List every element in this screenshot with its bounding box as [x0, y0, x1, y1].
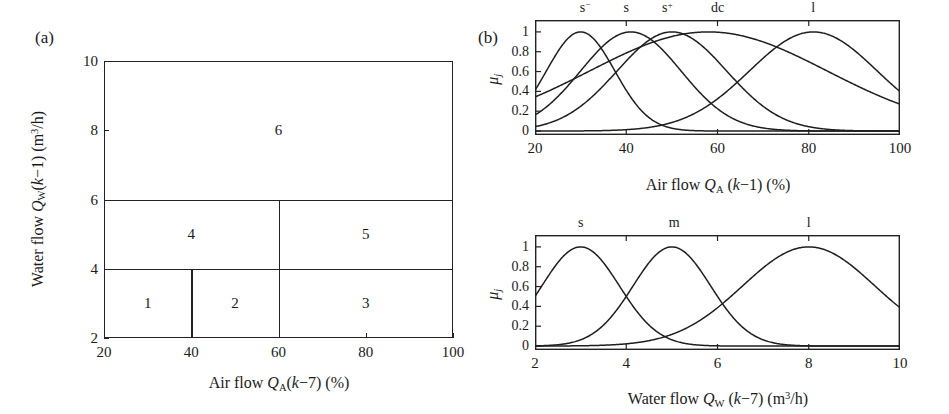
panel-a-yticklabel-8: 8: [68, 122, 98, 139]
b2-x-symbol: Q: [703, 390, 715, 407]
water-flow-membership-xticklabel-8: 8: [805, 355, 813, 372]
air-flow-x-axis-title: Air flow QA (k−1) (%): [646, 176, 791, 195]
water-flow-membership-yticklabel-0.6: 0.6: [495, 279, 529, 295]
air-flow-membership-yticklabel-0.8: 0.8: [495, 44, 529, 60]
panel-a: (a) Air flow QA(k−7) (%) Water flow QW(k…: [0, 0, 470, 414]
panel-a-xticklabel-40: 40: [184, 344, 199, 361]
panel-a-label: (a): [35, 28, 54, 48]
panel-a-y-title-symbol: Q: [29, 200, 46, 212]
water-flow-membership-frame: [536, 236, 900, 350]
air-flow-membership-xticklabel-100: 100: [889, 140, 912, 157]
air-flow-membership-term-dc: dc: [711, 0, 724, 16]
air-flow-membership-yticklabel-0.4: 0.4: [495, 83, 529, 99]
panel-a-yticklabel-6: 6: [68, 191, 98, 208]
panel-a-y-title-exponent: 3: [29, 129, 40, 134]
air-flow-membership-frame: [536, 21, 900, 135]
water-flow-x-axis-title: Water flow QW (k−7) (m3/h): [628, 390, 808, 409]
water-flow-membership-xticklabel-10: 10: [893, 355, 908, 372]
panel-a-y-title-prefix: Water flow: [29, 212, 46, 287]
b1-x-lag: −1) (%): [740, 176, 790, 193]
panel-a-xtick-40: [191, 333, 192, 338]
b1-x-prefix: Air flow: [646, 176, 705, 193]
b2-x-paren: (: [725, 390, 734, 407]
panel-a-yticklabel-2: 2: [68, 330, 98, 347]
air-flow-membership-term-s⁻: s−: [580, 0, 591, 16]
panel-a-region-4: 4: [188, 226, 196, 243]
water-flow-membership-term-l: l: [807, 215, 811, 231]
air-flow-membership-yticklabel-0.6: 0.6: [495, 64, 529, 80]
panel-a-ytick-10: [104, 61, 109, 62]
panel-a-y-title-subscript: W: [36, 190, 47, 200]
panel-a-xticklabel-100: 100: [442, 344, 465, 361]
water-flow-membership-yticklabel-1: 1: [495, 239, 529, 255]
panel-b: (b) μj Air flow QA (k−1) (%) μj Water fl…: [470, 0, 949, 414]
panel-a-xtick-80: [366, 333, 367, 338]
air-flow-membership-xticklabel-40: 40: [619, 140, 634, 157]
panel-a-divider-v-1: [279, 200, 280, 339]
panel-a-x-title-subscript: A: [279, 382, 287, 393]
panel-a-xticklabel-60: 60: [271, 344, 286, 361]
panel-a-ytick-4: [104, 269, 109, 270]
panel-a-xticklabel-20: 20: [97, 344, 112, 361]
panel-a-x-title-lag: −7) (%): [299, 374, 349, 391]
water-flow-membership-chart: [535, 235, 900, 350]
air-flow-membership-yticklabel-0: 0: [495, 123, 529, 139]
water-flow-membership-term-s: s: [578, 215, 583, 231]
panel-a-x-title-symbol: Q: [267, 374, 279, 391]
water-flow-membership-xticklabel-4: 4: [623, 355, 631, 372]
air-flow-membership-chart: [535, 20, 900, 135]
panel-a-region-5: 5: [362, 226, 370, 243]
panel-a-region-3: 3: [362, 295, 370, 312]
panel-a-y-title-unit: /h): [29, 111, 46, 129]
water-flow-membership-yticklabel-0.4: 0.4: [495, 298, 529, 314]
water-flow-membership-term-m: m: [669, 215, 680, 231]
panel-a-region-1: 1: [144, 295, 152, 312]
water-flow-membership-yticklabel-0.8: 0.8: [495, 259, 529, 275]
air-flow-membership-yticklabel-1: 1: [495, 24, 529, 40]
panel-a-yticklabel-4: 4: [68, 260, 98, 277]
panel-a-x-title-prefix: Air flow: [209, 374, 268, 391]
b2-x-subscript: W: [715, 398, 725, 409]
b1-x-paren: (: [724, 176, 733, 193]
air-flow-membership-term-s: s: [624, 0, 629, 16]
panel-a-divider-v-0: [191, 269, 192, 338]
water-flow-membership-xticklabel-2: 2: [531, 355, 539, 372]
panel-a-xtick-100: [453, 333, 454, 338]
water-flow-membership-xticklabel-6: 6: [714, 355, 722, 372]
air-flow-membership-xticklabel-60: 60: [710, 140, 725, 157]
panel-a-y-title-paren: (: [29, 185, 46, 190]
air-flow-membership-xticklabel-80: 80: [801, 140, 816, 157]
panel-a-yticklabel-10: 10: [68, 53, 98, 70]
water-flow-membership-yticklabel-0.2: 0.2: [495, 318, 529, 334]
air-flow-membership-xticklabel-20: 20: [528, 140, 543, 157]
panel-a-y-title-k: k: [29, 178, 46, 185]
air-flow-membership-term-l: l: [811, 0, 815, 16]
panel-a-x-axis-title: Air flow QA(k−7) (%): [209, 374, 350, 393]
b2-x-prefix: Water flow: [628, 390, 703, 407]
panel-a-xtick-60: [279, 333, 280, 338]
panel-a-ytick-8: [104, 130, 109, 131]
panel-a-region-6: 6: [275, 122, 283, 139]
panel-a-xticklabel-80: 80: [358, 344, 373, 361]
b1-x-symbol: Q: [704, 176, 716, 193]
air-flow-membership-svg: [535, 20, 900, 135]
b2-x-unit: /h): [790, 390, 808, 407]
air-flow-membership-yticklabel-0.2: 0.2: [495, 103, 529, 119]
b1-x-subscript: A: [716, 184, 724, 195]
panel-a-region-2: 2: [231, 295, 239, 312]
b2-x-lag: −7) (m: [741, 390, 785, 407]
panel-a-y-axis-title: Water flow QW(k−1) (m3/h): [29, 79, 48, 319]
panel-a-ytick-2: [104, 338, 109, 339]
water-flow-membership-svg: [535, 235, 900, 350]
panel-a-y-title-lag: −1) (m: [29, 134, 46, 178]
panel-a-ytick-6: [104, 200, 109, 201]
water-flow-membership-yticklabel-0: 0: [495, 338, 529, 354]
air-flow-membership-term-s⁺: s+: [662, 0, 673, 16]
